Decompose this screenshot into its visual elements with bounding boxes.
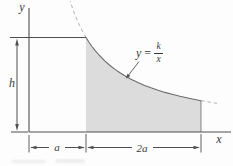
x-axis-label: x (216, 133, 221, 145)
cropped-print-artifact (55, 159, 85, 163)
curve-equation-label: y = k x (136, 42, 163, 65)
hyperbola-area-diagram: y x h a 2a y = k x (0, 0, 233, 166)
height-dimension-arrow-down (15, 124, 19, 131)
dim-2a-label: 2a (137, 143, 148, 154)
cropped-print-artifact (12, 160, 46, 163)
figure-canvas (0, 0, 233, 166)
equation-fraction: k x (154, 42, 163, 65)
equation-lhs: y (136, 46, 141, 61)
y-axis-label: y (19, 1, 24, 13)
curve-dashed-extension-top (70, 1, 86, 38)
curve-dashed-extension-right (201, 101, 217, 104)
dim-2a-arrow-right (194, 146, 200, 149)
height-dimension-label: h (9, 77, 15, 89)
dim-2a-arrow-left (87, 146, 93, 149)
dim-a-label: a (54, 142, 60, 153)
equation-numerator: k (157, 42, 161, 52)
dim-a-arrow-right (79, 146, 85, 149)
dim-a-arrow-left (30, 146, 36, 149)
height-dimension-arrow-up (15, 39, 19, 46)
equation-denominator: x (157, 55, 161, 65)
equation-equals-sign: = (144, 46, 151, 61)
